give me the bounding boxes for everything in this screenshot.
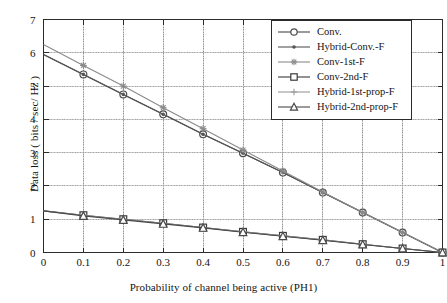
legend-item: Conv-1st-F (272, 54, 411, 69)
y-tick-label: 5 (14, 80, 36, 92)
legend-marker-dot-icon (276, 40, 312, 54)
chart-legend: Conv.Hybrid-Conv.-FConv-1st-FConv-2nd-FH… (271, 20, 412, 120)
legend-item: Conv. (272, 24, 411, 39)
x-tick-label: 0.6 (263, 256, 303, 268)
legend-item: Hybrid-1st-prop-F (272, 84, 411, 99)
x-tick-label: 1 (423, 256, 447, 268)
legend-item: Conv-2nd-F (272, 69, 411, 84)
y-tick-label: 6 (14, 47, 36, 59)
legend-item-label: Hybrid-Conv.-F (317, 40, 384, 54)
legend-item-label: Conv-2nd-F (317, 70, 368, 84)
x-tick-label: 0.1 (63, 256, 103, 268)
x-tick-label: 0.9 (383, 256, 423, 268)
x-tick-label: 0.3 (143, 256, 183, 268)
legend-item-label: Hybrid-1st-prop-F (317, 85, 395, 99)
legend-item-label: Conv-1st-F (317, 55, 365, 69)
series-hybrid-2nd-prop-f (44, 211, 447, 256)
x-tick-label: 0.7 (303, 256, 343, 268)
y-tick-label: 7 (14, 14, 36, 26)
legend-item: Hybrid-Conv.-F (272, 39, 411, 54)
x-tick-label: 0.4 (183, 256, 223, 268)
x-tick-label: 0.2 (103, 256, 143, 268)
x-axis-title: Probability of channel being active (PH1… (0, 281, 447, 293)
legend-item-label: Hybrid-2nd-prop-F (317, 100, 398, 114)
legend-marker-circle-icon (276, 25, 312, 39)
legend-marker-star-icon (276, 55, 312, 69)
y-tick-label: 2 (14, 180, 36, 192)
legend-marker-square-icon (276, 70, 312, 84)
y-tick-label: 1 (14, 213, 36, 225)
chart-figure: Probability of channel being active (PH1… (0, 0, 447, 303)
x-tick-label: 0.5 (223, 256, 263, 268)
x-tick-label: 0.8 (343, 256, 383, 268)
legend-item-label: Conv. (317, 25, 342, 39)
legend-item: Hybrid-2nd-prop-F (272, 99, 411, 114)
y-tick-label: 3 (14, 147, 36, 159)
y-tick-label: 0 (14, 247, 36, 259)
y-tick-label: 4 (14, 113, 36, 125)
legend-marker-triangle-icon (276, 100, 312, 114)
legend-marker-plus-icon (276, 85, 312, 99)
